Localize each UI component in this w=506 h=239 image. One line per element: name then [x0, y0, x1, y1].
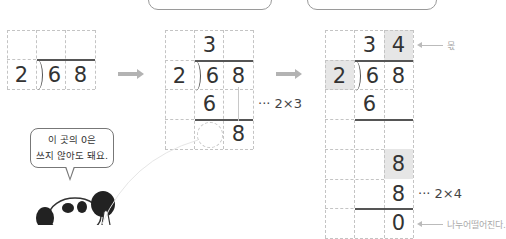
quotient-digit: 4: [384, 30, 413, 60]
divisor: 2: [165, 61, 194, 91]
bring-down-digit: 8: [224, 119, 253, 149]
divisor: 2: [325, 61, 354, 91]
remainder-pointer: [421, 224, 443, 225]
arrow-right-icon: [276, 72, 296, 76]
dividend-digit: 8: [66, 60, 95, 90]
quotient-label: 몫: [447, 39, 455, 52]
top-label-box-1: [148, 0, 272, 10]
quotient-digit: 3: [195, 30, 224, 60]
quotient-pointer: [421, 45, 443, 46]
product-note: ··· 2×4: [418, 186, 462, 201]
product-digit: 6: [195, 89, 224, 119]
empty-zero-circle: [197, 122, 223, 148]
arrow-right-icon: [118, 72, 138, 76]
remainder-label: 나누어떨어진다.: [447, 218, 506, 231]
product-digit: 8: [384, 179, 413, 209]
dividend-digit: 6: [40, 60, 69, 90]
product-note: ··· 2×3: [258, 96, 302, 111]
dividend-digit: 6: [198, 61, 227, 91]
product-digit: 6: [355, 89, 384, 119]
dividend-digit: 6: [358, 61, 387, 91]
remainder-digit: 0: [384, 208, 413, 238]
dividend-digit: 8: [384, 61, 413, 91]
pointer-curve: [100, 120, 200, 225]
bring-down-digit: 8: [384, 149, 413, 179]
quotient-digit: 3: [355, 30, 384, 60]
top-label-box-2: [307, 0, 437, 10]
divisor: 2: [7, 60, 36, 90]
